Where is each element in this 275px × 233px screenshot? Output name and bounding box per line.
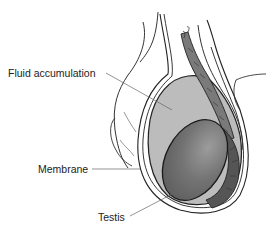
label-fluid-accumulation: Fluid accumulation bbox=[8, 67, 96, 79]
upper-left-contour bbox=[140, 12, 158, 62]
testis-leader-line bbox=[130, 190, 180, 216]
outer-skin-contour bbox=[114, 22, 144, 168]
label-membrane: Membrane bbox=[38, 163, 88, 175]
label-testis: Testis bbox=[98, 211, 125, 223]
hydrocele-illustration bbox=[0, 0, 275, 233]
